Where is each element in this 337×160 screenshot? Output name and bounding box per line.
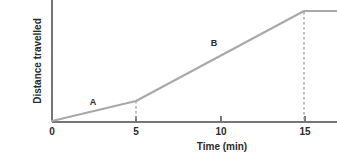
- y-axis-title-text: Distance travelled: [32, 18, 43, 104]
- x-tick-label-10: 10: [215, 126, 226, 137]
- segment-label-b: B: [211, 38, 218, 48]
- x-tick-label-0: 0: [49, 126, 55, 137]
- distance-time-chart: Distance travelled 0 5 10 15 Time (min) …: [0, 0, 337, 160]
- x-tick-label-5: 5: [133, 126, 139, 137]
- segment-label-a: A: [90, 97, 97, 107]
- x-tick-label-15: 15: [299, 126, 310, 137]
- x-axis-title: Time (min): [197, 141, 247, 152]
- y-axis-title: Distance travelled: [28, 0, 46, 122]
